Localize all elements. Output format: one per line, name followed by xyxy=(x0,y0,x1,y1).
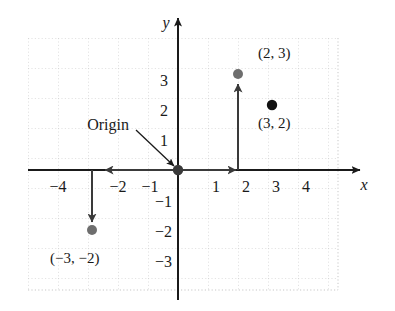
y-tick-label-minus1: −1 xyxy=(155,193,172,210)
y-tick-label-minus2: −2 xyxy=(155,223,172,240)
coordinate-plane-figure: x y −4 −2 −1 1 2 3 4 3 2 1 −1 −2 −3 Orig… xyxy=(0,0,395,311)
point-3-2 xyxy=(267,100,277,110)
y-tick-label-1: 1 xyxy=(160,132,168,149)
point-2-3 xyxy=(233,69,243,79)
x-tick-label-minus2: −2 xyxy=(109,178,126,195)
origin-label: Origin xyxy=(87,116,129,134)
y-tick-label-minus3: −3 xyxy=(155,253,172,270)
point-minus3-minus2 xyxy=(87,225,97,235)
x-tick-label-2: 2 xyxy=(242,178,250,195)
point-label-2-3: (2, 3) xyxy=(258,45,291,62)
x-tick-label-1: 1 xyxy=(212,178,220,195)
x-tick-label-minus4: −4 xyxy=(49,178,66,195)
y-axis-label: y xyxy=(160,14,170,32)
point-label-minus3-minus2: (−3, −2) xyxy=(50,250,99,267)
y-tick-label-2: 2 xyxy=(160,102,168,119)
point-origin xyxy=(173,165,183,175)
x-tick-label-4: 4 xyxy=(302,178,310,195)
y-tick-label-3: 3 xyxy=(160,72,168,89)
point-label-3-2: (3, 2) xyxy=(258,115,291,132)
x-axis-label: x xyxy=(359,176,367,193)
coordinate-plane-svg: x y −4 −2 −1 1 2 3 4 3 2 1 −1 −2 −3 Orig… xyxy=(0,0,395,311)
x-tick-label-3: 3 xyxy=(272,178,280,195)
